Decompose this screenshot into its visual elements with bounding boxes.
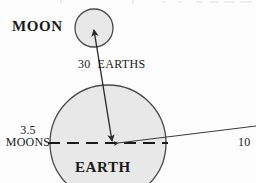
distance-value: 30 — [78, 57, 91, 71]
moon-circle — [75, 9, 113, 47]
distance-label: 30EARTHS — [78, 58, 145, 70]
figure-root: MOON EARTH 30EARTHS 3.5 MOONS 10 — [0, 0, 256, 183]
right-cropped-label: 10 — [238, 136, 251, 148]
diameter-label: 3.5 MOONS — [2, 124, 54, 148]
earth-label: EARTH — [75, 160, 131, 175]
diameter-unit: MOONS — [2, 136, 54, 148]
distance-unit: EARTHS — [98, 57, 146, 71]
moon-label: MOON — [12, 19, 63, 34]
scan-artifacts — [60, 0, 252, 4]
